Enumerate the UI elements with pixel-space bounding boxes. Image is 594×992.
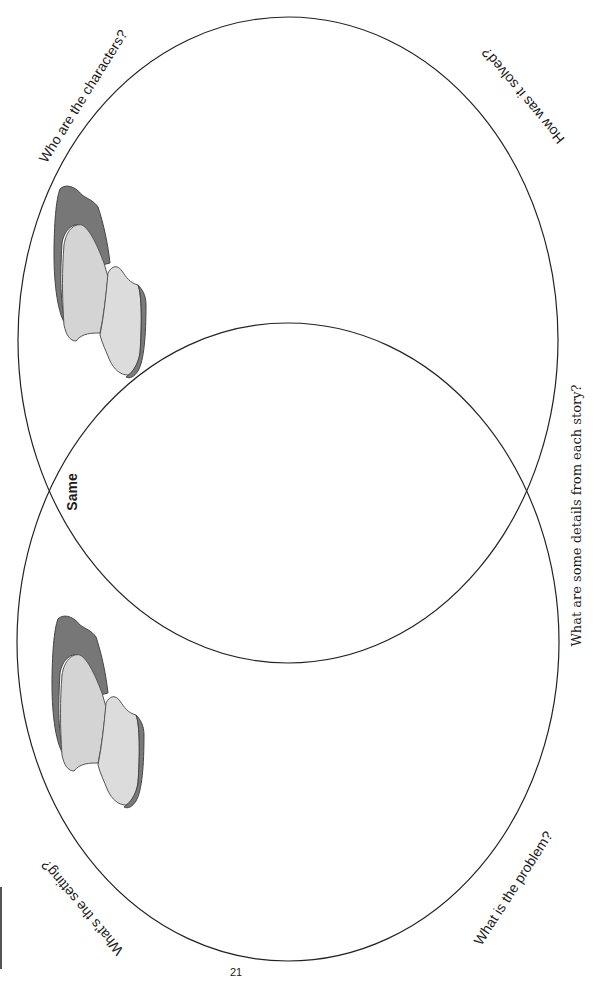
top-circle [18, 17, 558, 663]
margin-bar [0, 887, 2, 969]
same-label: Same [64, 472, 80, 512]
book-icon [54, 186, 146, 378]
bottom-circle [17, 323, 559, 961]
details-prompt: What are some details from each story? [569, 361, 584, 671]
page-number: 21 [0, 966, 472, 978]
venn-diagram [0, 0, 594, 992]
book-icon [52, 616, 144, 808]
